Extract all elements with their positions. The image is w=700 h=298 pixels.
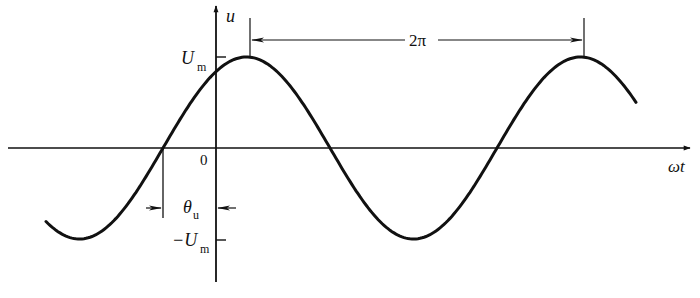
min-level-subscript: m: [200, 242, 210, 256]
sine-wave-diagram: ωt u 0 U m −U m 2π θ: [0, 0, 700, 298]
min-level-label: −U: [172, 230, 198, 250]
phase-label: θ: [183, 197, 192, 217]
origin-label: 0: [200, 152, 208, 168]
y-axis-label: u: [226, 6, 235, 26]
max-level-label: U: [181, 48, 195, 68]
period-label: 2π: [409, 31, 427, 50]
max-level-subscript: m: [197, 60, 207, 74]
phase-subscript: u: [193, 208, 199, 222]
x-axis-label: ωt: [668, 157, 686, 176]
